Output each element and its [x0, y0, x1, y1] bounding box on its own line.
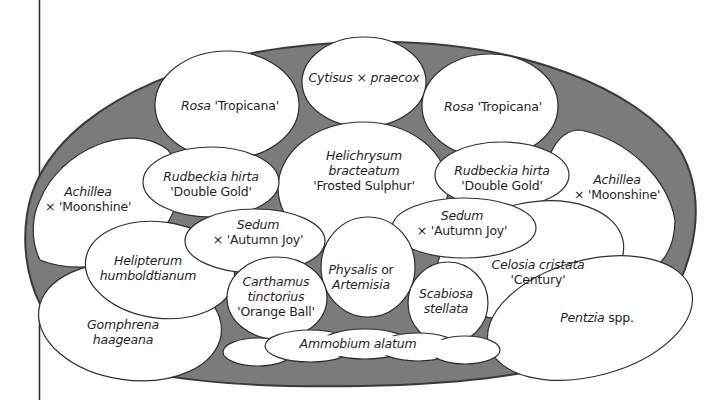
label-line: haageana [87, 332, 159, 347]
label-sedum-right: Sedum× 'Autumn Joy' [417, 208, 508, 238]
label-line: × 'Moonshine' [45, 199, 131, 214]
label-line: Rudbeckia hirta [454, 163, 549, 178]
label-physalis: Physalis orArtemisia [328, 262, 393, 292]
label-line: bracteatum [313, 163, 415, 178]
label-line: 'Century' [491, 272, 584, 287]
label-ammobium: Ammobium alatum [300, 336, 417, 351]
label-line: Sedum [213, 217, 304, 232]
label-line: Scabiosa [419, 286, 473, 301]
label-rudbeckia-left: Rudbeckia hirta'Double Gold' [163, 169, 258, 199]
label-line: Achillea [574, 172, 660, 187]
label-line: tinctorius [237, 289, 315, 304]
label-line: Artemisia [328, 277, 393, 292]
label-rudbeckia-right: Rudbeckia hirta'Double Gold' [454, 163, 549, 193]
label-cytisus: Cytisus × praecox [309, 70, 420, 85]
label-line: × 'Moonshine' [574, 187, 660, 202]
label-line: Rosa 'Tropicana' [181, 98, 279, 113]
label-helichrysum: Helichrysumbracteatum'Frosted Sulphur' [313, 148, 415, 193]
label-line: Carthamus [237, 274, 315, 289]
label-helipterum: Helipterumhumboldtianum [100, 253, 196, 283]
label-pentzia: Pentzia spp. [560, 310, 634, 325]
label-line: Gomphrena [87, 317, 159, 332]
label-gomphrena: Gomphrenahaageana [87, 317, 159, 347]
label-line: Helipterum [100, 253, 196, 268]
label-sedum-left: Sedum× 'Autumn Joy' [213, 217, 304, 247]
label-line: Celosia cristata [491, 257, 584, 272]
label-line: Cytisus × praecox [309, 70, 420, 85]
label-line: × 'Autumn Joy' [417, 223, 508, 238]
label-line: humboldtianum [100, 268, 196, 283]
label-line: 'Double Gold' [454, 178, 549, 193]
label-line: × 'Autumn Joy' [213, 232, 304, 247]
label-line: Rudbeckia hirta [163, 169, 258, 184]
label-line: 'Frosted Sulphur' [313, 178, 415, 193]
label-scabiosa: Scabiosastellata [419, 286, 473, 316]
label-achillea-right: Achillea× 'Moonshine' [574, 172, 660, 202]
label-line: 'Orange Ball' [237, 304, 315, 319]
label-line: Pentzia spp. [560, 310, 634, 325]
label-achillea-left: Achillea× 'Moonshine' [45, 184, 131, 214]
label-line: Sedum [417, 208, 508, 223]
label-line: Achillea [45, 184, 131, 199]
label-line: Helichrysum [313, 148, 415, 163]
label-line: Rosa 'Tropicana' [444, 99, 542, 114]
label-rosa-right: Rosa 'Tropicana' [444, 99, 542, 114]
label-line: stellata [419, 301, 473, 316]
label-celosia: Celosia cristata'Century' [491, 257, 584, 287]
label-line: Ammobium alatum [300, 336, 417, 351]
label-carthamus: Carthamustinctorius'Orange Ball' [237, 274, 315, 319]
label-line: 'Double Gold' [163, 184, 258, 199]
label-line: Physalis or [328, 262, 393, 277]
label-rosa-left: Rosa 'Tropicana' [181, 98, 279, 113]
